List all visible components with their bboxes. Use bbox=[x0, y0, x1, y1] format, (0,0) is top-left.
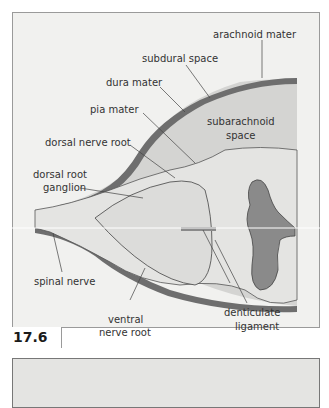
caption-box bbox=[12, 358, 320, 408]
label-arachnoid-mater: arachnoid mater bbox=[213, 29, 297, 40]
label-denticulate-ligament-2: ligament bbox=[235, 321, 279, 332]
label-dorsal-nerve-root: dorsal nerve root bbox=[45, 137, 131, 148]
label-subdural-space: subdural space bbox=[142, 53, 218, 64]
label-dorsal-root-ganglion-2: ganglion bbox=[43, 182, 86, 193]
label-subarachnoid-space-1: subarachnoid bbox=[207, 116, 275, 127]
label-spinal-nerve: spinal nerve bbox=[34, 276, 95, 287]
label-ventral-nerve-root-1: ventral bbox=[108, 314, 143, 325]
label-pia-mater: pia mater bbox=[90, 104, 139, 115]
label-dorsal-root-ganglion-1: dorsal root bbox=[33, 169, 87, 180]
figure-number: 17.6 bbox=[13, 329, 48, 345]
label-ventral-nerve-root-2: nerve root bbox=[99, 327, 151, 338]
label-dura-mater: dura mater bbox=[106, 77, 163, 88]
label-subarachnoid-space-2: space bbox=[226, 130, 255, 141]
label-denticulate-ligament-1: denticulate bbox=[224, 307, 280, 318]
